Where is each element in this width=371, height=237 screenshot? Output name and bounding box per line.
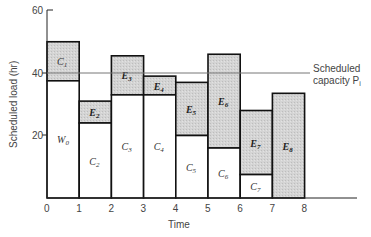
upper-segment-subscript: 8 [289,146,293,154]
upper-segment-subscript: 7 [257,143,261,151]
upper-segment-subscript: 2 [95,112,100,120]
lower-segment-subscript: 6 [225,173,229,181]
lower-segment-subscript: 2 [96,161,100,169]
x-tick-label-7: 7 [269,203,275,214]
y-tick-label-60: 60 [32,5,44,16]
bar-0: W0C1 [47,42,79,198]
x-tick-label-4: 4 [173,203,179,214]
capacity-label-text: capacity P [313,75,359,86]
upper-segment-subscript: 6 [225,101,229,109]
bar-6: C7E7 [240,111,272,199]
bar-2: C3E3 [111,56,143,198]
x-tick-label-2: 2 [108,203,114,214]
lower-segment-subscript: 5 [193,167,197,175]
x-tick-label-1: 1 [76,203,82,214]
lower-segment-subscript: 4 [160,146,164,154]
bar-5: C6E6 [208,54,240,198]
x-tick-label-6: 6 [237,203,243,214]
x-tick-label-0: 0 [44,203,50,214]
x-tick-label-3: 3 [141,203,147,214]
bar-7: E8 [272,93,304,198]
x-tick-label-8: 8 [302,203,308,214]
bar-4: C5E5 [176,82,208,198]
capacity-label-subscript: i [359,80,361,87]
lower-segment-subscript: 3 [127,146,132,154]
lower-segment-subscript: 0 [65,139,69,147]
bar-3: C4E4 [144,76,176,198]
capacity-label-line2: capacity Pi [313,75,361,87]
upper-segment-subscript: 1 [64,61,68,69]
lower-segment-subscript: 7 [257,186,261,194]
capacity-label-line1: Scheduled [313,63,360,74]
x-axis-label: Time [168,219,190,230]
x-tick-labels: 012345678 [44,203,308,214]
y-axis-label: Scheduled load (hr) [8,61,19,148]
bar-1: C2E2 [79,101,111,198]
upper-segment-subscript: 4 [159,86,164,94]
y-tick-label-20: 20 [32,130,44,141]
upper-segment-subscript: 3 [127,75,132,83]
x-tick-label-5: 5 [205,203,211,214]
scheduled-load-chart: W0C1C2E2C3E3C4E4C5E5C6E6C7E7E8 Scheduled… [0,0,371,237]
upper-segment-subscript: 5 [193,109,197,117]
y-tick-label-40: 40 [32,68,44,79]
bars-group: W0C1C2E2C3E3C4E4C5E5C6E6C7E7E8 [47,42,305,198]
tick-labels: 60 40 20 [32,5,44,141]
